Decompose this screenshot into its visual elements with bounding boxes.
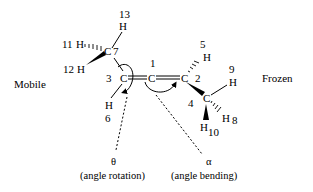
theta-leader-line	[116, 97, 127, 150]
h9-index: 9	[229, 63, 235, 75]
h13-index: 13	[119, 8, 131, 20]
h5-atom: H	[203, 51, 211, 63]
c4-atom: C	[203, 92, 210, 104]
h6-index: 6	[105, 112, 111, 124]
alpha-symbol: α	[206, 156, 212, 167]
h10-atom: H	[200, 121, 208, 133]
h9-atom: H	[229, 76, 237, 88]
bond-c4-h9	[211, 85, 227, 95]
molecule-diagram: Mobile Frozen 13 H 11 H C 7 12 H 3 C 1 C…	[0, 0, 313, 192]
c4-index: 4	[188, 97, 194, 109]
h13-atom: H	[119, 20, 127, 32]
frozen-label: Frozen	[262, 72, 293, 84]
wedge-bond-c4-h10	[203, 104, 209, 120]
h6-atom: H	[105, 99, 113, 111]
hashed-bond-c4-h8	[211, 101, 221, 112]
c2-index: 2	[195, 72, 201, 84]
mobile-label: Mobile	[14, 78, 46, 90]
wedge-bond-c7-h12	[86, 51, 106, 65]
h12-index: 12	[63, 63, 74, 75]
c3-index: 3	[106, 72, 112, 84]
h8-index: 8	[232, 114, 238, 126]
c1-index: 1	[150, 57, 156, 69]
bond-c3-h6	[111, 84, 122, 98]
alpha-leader-line	[156, 95, 202, 154]
h8-atom: H	[222, 112, 230, 124]
hashed-bond-c2-h5	[188, 61, 199, 72]
h11-index: 11	[62, 38, 73, 50]
theta-caption: (angle rotation)	[80, 170, 146, 182]
c7-index: 7	[113, 45, 119, 57]
alpha-caption: (angle bending)	[171, 170, 238, 182]
h5-index: 5	[200, 38, 206, 50]
theta-symbol: θ	[111, 156, 116, 167]
hashed-bond-c7-h11	[85, 44, 101, 51]
h10-index: 10	[208, 126, 220, 138]
h12-atom: H	[77, 63, 85, 75]
h11-atom: H	[76, 38, 84, 50]
c2-atom: C	[181, 72, 188, 84]
c1-atom: C	[148, 72, 155, 84]
c3-atom: C	[120, 72, 127, 84]
